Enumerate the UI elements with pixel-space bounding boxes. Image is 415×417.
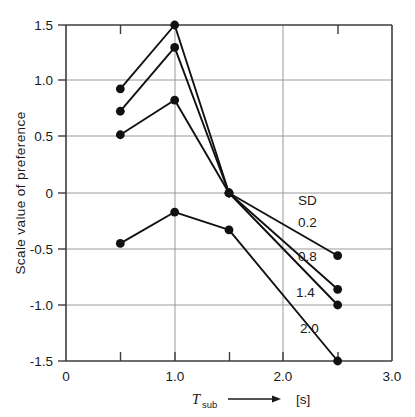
x-tick-label-0: 0 — [62, 369, 70, 384]
series-label-0.8: 0.8 — [298, 249, 317, 264]
chart-figure: 1.5 1.0 0.5 0 -0.5 -1.0 -1.5 0 1.0 2.0 3… — [0, 0, 415, 417]
series-label-0.2: 0.2 — [298, 215, 317, 230]
y-tick-label-5: -1.0 — [30, 298, 53, 313]
data-point-marker — [170, 96, 179, 105]
preference-scale-line-chart: 1.5 1.0 0.5 0 -0.5 -1.0 -1.5 0 1.0 2.0 3… — [0, 0, 415, 417]
data-point-marker — [116, 130, 125, 139]
chart-background — [0, 0, 415, 417]
legend-heading-sd: SD — [298, 193, 317, 208]
y-tick-label-3: 0 — [45, 186, 53, 201]
series-label-1.4: 1.4 — [296, 285, 315, 300]
data-point-marker — [333, 301, 342, 310]
data-point-marker — [225, 226, 234, 235]
data-point-marker — [116, 107, 125, 116]
data-point-marker — [170, 208, 179, 217]
y-tick-label-1: 1.0 — [34, 73, 53, 88]
y-tick-label-0: 1.5 — [34, 18, 53, 33]
data-point-marker — [225, 189, 234, 198]
x-axis-subscript: sub — [202, 399, 217, 410]
y-tick-label-6: -1.5 — [30, 354, 53, 369]
data-point-marker — [170, 21, 179, 30]
x-tick-label-1: 1.0 — [166, 369, 185, 384]
data-point-marker — [333, 251, 342, 260]
data-point-marker — [116, 84, 125, 93]
series-label-2.0: 2.0 — [300, 321, 319, 336]
y-axis-title: Scale value of preference — [13, 111, 28, 274]
x-tick-label-3: 3.0 — [383, 369, 402, 384]
data-point-marker — [333, 285, 342, 294]
data-point-marker — [333, 357, 342, 366]
x-tick-label-2: 2.0 — [274, 369, 293, 384]
data-point-marker — [170, 43, 179, 52]
y-tick-label-4: -0.5 — [30, 242, 53, 257]
y-tick-label-2: 0.5 — [34, 129, 53, 144]
data-point-marker — [116, 239, 125, 248]
x-axis-unit: [s] — [296, 392, 310, 407]
